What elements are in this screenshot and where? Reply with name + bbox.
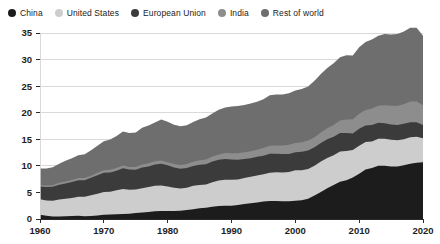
y-axis-tick-labels: 05101520253035 — [21, 27, 32, 224]
x-tick-label-2020: 2020 — [412, 225, 433, 236]
legend-item-rest-of-world[interactable]: Rest of world — [261, 9, 324, 18]
legend-label: China — [20, 9, 43, 18]
y-tick-label-25: 25 — [21, 81, 32, 92]
legend-item-india[interactable]: India — [218, 9, 249, 18]
chart-legend: ChinaUnited StatesEuropean UnionIndiaRes… — [8, 6, 324, 20]
circle-swatch-icon — [55, 9, 63, 17]
x-tick-label-1980: 1980 — [157, 225, 178, 236]
y-tick-label-20: 20 — [21, 107, 32, 118]
stacked-area-chart: 05101520253035 1960197019801990200020102… — [0, 24, 440, 244]
x-tick-label-1970: 1970 — [93, 225, 114, 236]
y-tick-label-15: 15 — [21, 134, 32, 145]
y-tick-label-5: 5 — [27, 187, 33, 198]
legend-item-united-states[interactable]: United States — [55, 9, 119, 18]
circle-swatch-icon — [261, 9, 269, 17]
legend-label: India — [230, 9, 249, 18]
chart-plot-area: 05101520253035 1960197019801990200020102… — [0, 24, 440, 244]
y-tick-label-35: 35 — [21, 27, 32, 38]
y-tick-label-30: 30 — [21, 54, 32, 65]
x-tick-label-2000: 2000 — [285, 225, 306, 236]
y-tick-label-10: 10 — [21, 160, 32, 171]
legend-label: United States — [67, 9, 119, 18]
circle-swatch-icon — [131, 9, 139, 17]
legend-item-china[interactable]: China — [8, 9, 43, 18]
legend-label: Rest of world — [273, 9, 324, 18]
chart-screenshot: ChinaUnited StatesEuropean UnionIndiaRes… — [0, 0, 440, 244]
x-tick-label-1990: 1990 — [221, 225, 242, 236]
x-axis-tick-labels: 1960197019801990200020102020 — [29, 225, 433, 236]
x-tick-label-2010: 2010 — [349, 225, 370, 236]
legend-label: European Union — [143, 9, 206, 18]
x-tick-label-1960: 1960 — [29, 225, 50, 236]
y-tick-label-0: 0 — [27, 213, 32, 224]
legend-item-european-union[interactable]: European Union — [131, 9, 206, 18]
circle-swatch-icon — [218, 9, 226, 17]
circle-swatch-icon — [8, 9, 16, 17]
area-series-group — [40, 28, 423, 219]
